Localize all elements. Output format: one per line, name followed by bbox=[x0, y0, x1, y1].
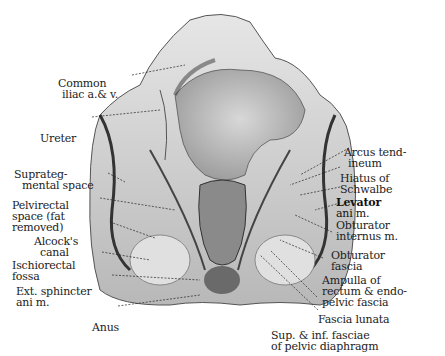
label-ext-sphincter: Ext. sphincterani m. bbox=[16, 264, 92, 319]
label-common-iliac: Commoniliac a.& v. bbox=[58, 56, 118, 111]
label-anus: Anus bbox=[92, 300, 119, 344]
label-sup-inf-fasciae: Sup. & inf. fasciaeof pelvic diaphragm bbox=[271, 308, 378, 356]
